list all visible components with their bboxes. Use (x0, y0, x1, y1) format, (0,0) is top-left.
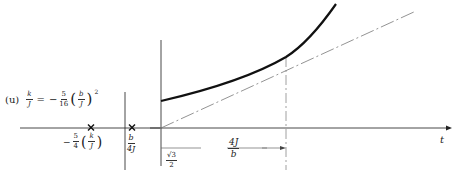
marker-1-lparen: ( (81, 134, 86, 150)
exponent: 2 (94, 88, 98, 95)
marker-1-rparen: ) (97, 134, 102, 150)
pole-marker-1 (88, 125, 94, 131)
t-axis-label: t (440, 135, 444, 145)
left-paren: ( (70, 90, 76, 108)
panel-label: (u) (5, 94, 19, 105)
intercept-label-den: 2 (169, 161, 173, 169)
minus-sign: − (49, 94, 57, 105)
marker-1-inner-den: J (90, 142, 93, 150)
pole-marker-2 (129, 125, 135, 131)
t-axis-arrow-icon (446, 126, 452, 131)
inner-denominator: J (80, 100, 83, 108)
marker-2-label: b 4J (127, 134, 135, 153)
right-paren: ) (87, 90, 93, 108)
response-curve (161, 4, 336, 101)
marker-1-sign: − (63, 137, 71, 147)
interval-arrowhead-icon (280, 146, 286, 150)
marker-1-inner-num: k (88, 133, 94, 142)
marker-1-inner: k J (88, 133, 94, 150)
inner-numerator: b (78, 91, 84, 100)
marker-1-label: − 5 4 ( k J ) (63, 133, 102, 150)
coef-fraction: 5 16 (59, 91, 68, 108)
coef-denominator: 16 (59, 100, 68, 108)
marker-1-coef-den: 4 (74, 142, 78, 150)
marker-2-num: b (128, 134, 135, 144)
interval-label-den: b (231, 149, 237, 159)
intercept-label-num: √3 (166, 152, 177, 161)
lhs-numerator: k (26, 91, 32, 100)
marker-2-den: 4J (127, 144, 135, 153)
equals-sign: = (37, 94, 45, 105)
tangent-line (161, 11, 416, 128)
marker-1-coef-num: 5 (73, 133, 79, 142)
interval-label: 4J b (228, 138, 239, 159)
inner-fraction: b J (78, 91, 84, 108)
lhs-fraction: k J (26, 91, 32, 108)
panel-equation: (u) k J = − 5 16 ( b J ) 2 (5, 90, 98, 108)
marker-1-coef: 5 4 (73, 133, 79, 150)
lhs-denominator: J (28, 100, 31, 108)
interval-label-num: 4J (228, 138, 239, 149)
coef-numerator: 5 (61, 91, 67, 100)
intercept-label: √3 2 (166, 152, 177, 169)
